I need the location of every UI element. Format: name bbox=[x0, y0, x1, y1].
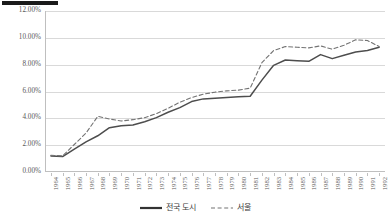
legend-item: 전국 도시 bbox=[139, 204, 196, 212]
x-axis-tick-label: 1974 bbox=[171, 177, 178, 190]
x-axis-tick-label: 1972 bbox=[147, 177, 154, 190]
x-axis-tick bbox=[309, 173, 310, 176]
x-axis-tick-label: 1970 bbox=[124, 177, 131, 190]
x-axis-tick-label: 1971 bbox=[136, 177, 143, 190]
x-axis-tick bbox=[203, 173, 204, 176]
series-line bbox=[51, 47, 379, 156]
x-axis-tick bbox=[215, 173, 216, 176]
x-axis-tick-label: 1969 bbox=[112, 177, 119, 190]
x-axis-tick-label: 1990 bbox=[358, 177, 365, 190]
x-axis-tick bbox=[121, 173, 122, 176]
x-axis-tick-label: 1966 bbox=[77, 177, 84, 190]
x-axis-tick bbox=[274, 173, 275, 176]
y-axis-tick-label: 10.00% bbox=[19, 34, 41, 41]
x-axis-tick-label: 1987 bbox=[323, 177, 330, 190]
x-axis-tick bbox=[297, 173, 298, 176]
x-axis-tick bbox=[367, 173, 368, 176]
x-axis-tick-label: 1986 bbox=[311, 177, 318, 190]
x-axis-tick bbox=[109, 173, 110, 176]
y-axis-labels: 12.00%10.00%8.00%6.00%4.00%2.00%0.00% bbox=[0, 0, 45, 183]
x-axis-tick-label: 1968 bbox=[100, 177, 107, 190]
x-axis-tick bbox=[145, 173, 146, 176]
x-axis-tick bbox=[321, 173, 322, 176]
x-axis-tick-label: 1992 bbox=[382, 177, 389, 190]
legend-swatch-solid bbox=[139, 205, 163, 211]
legend-item: 서울 bbox=[210, 204, 251, 212]
x-axis-tick bbox=[285, 173, 286, 176]
chart-legend: 전국 도시서울 bbox=[0, 201, 390, 215]
legend-swatch-dashed bbox=[210, 205, 234, 211]
legend-label: 서울 bbox=[237, 204, 251, 212]
x-axis-tick-label: 1985 bbox=[300, 177, 307, 190]
x-axis-tick-label: 1976 bbox=[194, 177, 201, 190]
x-axis-tick bbox=[262, 173, 263, 176]
y-axis-tick-label: 2.00% bbox=[22, 142, 41, 149]
x-axis-tick-label: 1978 bbox=[218, 177, 225, 190]
x-axis-tick bbox=[86, 173, 87, 176]
x-axis-tick-label: 1975 bbox=[182, 177, 189, 190]
x-axis-tick-label: 1991 bbox=[370, 177, 377, 190]
x-axis-tick-label: 1977 bbox=[206, 177, 213, 190]
chart-root: 12.00%10.00%8.00%6.00%4.00%2.00%0.00% 19… bbox=[0, 0, 390, 217]
x-axis-tick-label: 1988 bbox=[335, 177, 342, 190]
x-axis-tick bbox=[168, 173, 169, 176]
x-axis-tick bbox=[74, 173, 75, 176]
x-axis-tick bbox=[133, 173, 134, 176]
legend-label: 전국 도시 bbox=[166, 204, 196, 212]
x-axis-tick bbox=[192, 173, 193, 176]
x-axis-tick bbox=[63, 173, 64, 176]
x-axis-tick bbox=[250, 173, 251, 176]
x-axis-tick bbox=[51, 173, 52, 176]
x-axis-tick bbox=[98, 173, 99, 176]
x-axis-tick bbox=[344, 173, 345, 176]
series-lines bbox=[45, 11, 385, 172]
x-axis-tick-label: 1973 bbox=[159, 177, 166, 190]
x-axis-tick-label: 1980 bbox=[241, 177, 248, 190]
x-axis-tick-label: 1989 bbox=[347, 177, 354, 190]
x-axis-tick-label: 1965 bbox=[65, 177, 72, 190]
x-axis-tick-label: 1983 bbox=[276, 177, 283, 190]
y-axis-tick-label: 8.00% bbox=[22, 61, 41, 68]
x-axis-tick-label: 1967 bbox=[89, 177, 96, 190]
y-axis-tick-label: 4.00% bbox=[22, 115, 41, 122]
x-axis-tick bbox=[227, 173, 228, 176]
x-axis-tick-label: 1984 bbox=[288, 177, 295, 190]
x-axis-tick-label: 1982 bbox=[264, 177, 271, 190]
x-axis-tick bbox=[379, 173, 380, 176]
x-axis-tick-label: 1979 bbox=[229, 177, 236, 190]
y-axis-tick-label: 12.00% bbox=[19, 7, 41, 14]
x-axis-tick bbox=[156, 173, 157, 176]
x-axis-labels: 1964196519661967196819691970197119721973… bbox=[45, 173, 385, 203]
x-axis-tick-label: 1981 bbox=[253, 177, 260, 190]
y-axis-tick-label: 0.00% bbox=[22, 168, 41, 175]
x-axis-tick bbox=[238, 173, 239, 176]
y-axis-tick-label: 6.00% bbox=[22, 88, 41, 95]
x-axis-tick-label: 1964 bbox=[53, 177, 60, 190]
x-axis-tick bbox=[180, 173, 181, 176]
x-axis-tick bbox=[356, 173, 357, 176]
x-axis-tick bbox=[332, 173, 333, 176]
